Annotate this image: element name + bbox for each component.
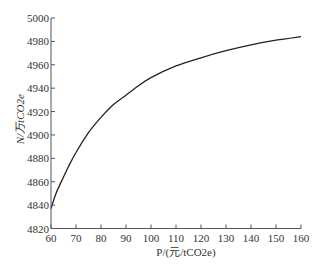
x-tick-label: 80 <box>96 232 108 244</box>
y-tick-label: 4900 <box>27 129 50 141</box>
y-tick-label: 5000 <box>27 12 50 24</box>
x-tick-label: 70 <box>71 232 83 244</box>
y-tick-label: 4960 <box>27 59 50 71</box>
plot-area <box>51 37 301 209</box>
x-tick-label: 120 <box>193 232 210 244</box>
x-axis-title: P/(元/tCO2e) <box>156 246 216 259</box>
y-tick-label: 4860 <box>27 176 50 188</box>
x-tick-label: 130 <box>218 232 235 244</box>
y-tick-label: 4840 <box>27 199 50 211</box>
x-tick-label: 160 <box>293 232 310 244</box>
x-tick-label: 100 <box>143 232 160 244</box>
line-chart: 4820484048604880490049204940496049805000… <box>0 0 324 269</box>
x-tick-label: 150 <box>268 232 285 244</box>
x-tick-label: 90 <box>121 232 133 244</box>
axes: 4820484048604880490049204940496049805000… <box>27 12 310 244</box>
data-line-N <box>51 37 301 209</box>
y-axis-title: N/万tCO2e <box>14 94 26 145</box>
y-tick-label: 4880 <box>27 152 50 164</box>
y-tick-label: 4980 <box>27 35 50 47</box>
y-tick-label: 4940 <box>27 82 50 94</box>
y-tick-label: 4920 <box>27 106 50 118</box>
x-tick-label: 60 <box>46 232 58 244</box>
x-tick-label: 110 <box>168 232 185 244</box>
x-tick-label: 140 <box>243 232 260 244</box>
